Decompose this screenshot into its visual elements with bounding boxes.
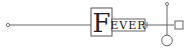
top-terminal-icon <box>166 3 169 6</box>
fever-rest-label: EVER <box>110 19 146 32</box>
diagram-canvas: F EVER <box>0 0 189 51</box>
start-terminal-icon <box>6 23 9 26</box>
fever-initial-letter: F <box>92 8 110 38</box>
right-square-icon <box>175 21 183 29</box>
bottom-circle-icon <box>162 35 173 46</box>
